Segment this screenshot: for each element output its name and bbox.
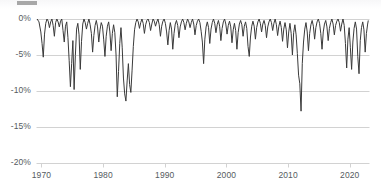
y-axis-tick-label: -15% <box>1 122 31 131</box>
drawdown-chart: 0%-5%-10%-15%-20% 1970198019902000201020… <box>0 0 381 193</box>
x-axis-tick-label: 1970 <box>21 171 61 180</box>
x-axis-tick-label: 1990 <box>145 171 185 180</box>
x-tick-marks-group <box>42 164 351 168</box>
y-axis-tick-label: -5% <box>1 50 31 59</box>
y-axis-tick-label: -10% <box>1 86 31 95</box>
x-axis-tick-label: 2010 <box>268 171 308 180</box>
drawdown-series-line <box>37 19 368 111</box>
gridlines-group <box>37 20 370 164</box>
x-axis-tick-label: 1980 <box>83 171 123 180</box>
y-axis-tick-label: -20% <box>1 158 31 167</box>
x-axis-tick-label: 2000 <box>206 171 246 180</box>
y-axis-tick-label: 0% <box>1 14 31 23</box>
x-axis-tick-label: 2020 <box>330 171 370 180</box>
chart-plot-area <box>0 0 381 193</box>
